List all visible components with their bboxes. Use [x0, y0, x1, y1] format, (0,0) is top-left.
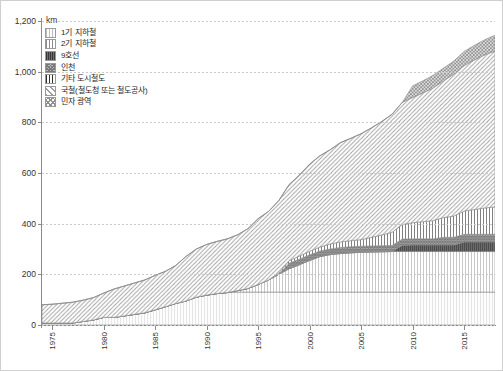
y-tick-label: 800	[0, 117, 36, 127]
gridline-0	[42, 325, 495, 326]
y-tick-label: 400	[0, 219, 36, 229]
legend-label: 국철(철도청 또는 철도공사)	[61, 87, 148, 95]
legend-label: 1기 지하철	[61, 29, 96, 37]
x-tick-label: 2005	[357, 332, 366, 350]
x-tick-mark	[52, 326, 53, 330]
y-tick-label: 600	[0, 168, 36, 178]
x-tick-label: 2010	[409, 332, 418, 350]
legend-label: 인천	[61, 64, 75, 72]
legend-swatch-incheon	[45, 63, 56, 73]
gridline-1200	[42, 21, 495, 22]
x-tick-mark	[464, 326, 465, 330]
gridline-600	[42, 173, 495, 174]
y-tick-label: 200	[0, 269, 36, 279]
legend-label: 민자 광역	[61, 98, 91, 106]
legend-swatch-line9	[45, 51, 56, 61]
x-tick-label: 1990	[203, 332, 212, 350]
legend-label: 기타 도시철도	[61, 75, 105, 83]
legend-swatch-subway1	[45, 28, 56, 38]
x-tick-mark	[310, 326, 311, 330]
y-tick-label: 1,000	[0, 67, 36, 77]
legend-item-subway1: 1기 지하철	[45, 27, 148, 39]
legend-item-line9: 9호선	[45, 50, 148, 62]
x-tick-mark	[104, 326, 105, 330]
y-tick-label: 0	[0, 320, 36, 330]
gridline-800	[42, 122, 495, 123]
legend: 1기 지하철2기 지하철9호선인천기타 도시철도국철(철도청 또는 철도공사)민…	[45, 27, 148, 108]
x-tick-label: 2015	[460, 332, 469, 350]
legend-item-private: 민자 광역	[45, 97, 148, 109]
x-tick-label: 1975	[48, 332, 57, 350]
x-tick-mark	[361, 326, 362, 330]
legend-label: 9호선	[61, 52, 79, 60]
x-tick-label: 1980	[100, 332, 109, 350]
gridline-400	[42, 224, 495, 225]
x-tick-label: 2000	[306, 332, 315, 350]
x-tick-mark	[413, 326, 414, 330]
gridline-200	[42, 274, 495, 275]
x-tick-mark	[155, 326, 156, 330]
legend-label: 2기 지하철	[61, 40, 96, 48]
legend-swatch-private	[45, 97, 56, 107]
legend-swatch-national	[45, 86, 56, 96]
legend-item-other: 기타 도시철도	[45, 73, 148, 85]
legend-item-incheon: 인천	[45, 62, 148, 74]
legend-item-subway2: 2기 지하철	[45, 39, 148, 51]
legend-swatch-subway2	[45, 39, 56, 49]
y-tick-label: 1,200	[0, 16, 36, 26]
x-tick-mark	[207, 326, 208, 330]
x-tick-label: 1995	[254, 332, 263, 350]
legend-item-national: 국철(철도청 또는 철도공사)	[45, 85, 148, 97]
x-tick-label: 1985	[151, 332, 160, 350]
legend-swatch-other	[45, 74, 56, 84]
x-tick-mark	[258, 326, 259, 330]
